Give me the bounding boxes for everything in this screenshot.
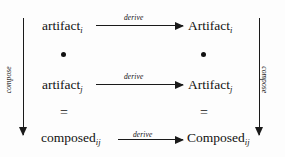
node-artifact-j-upper: Artifactj [188, 78, 233, 92]
node-composed-ij-subscript: ij [96, 137, 101, 147]
compose-arrow-left-label: compose [5, 66, 13, 93]
node-composed-ij-upper-base: Composed [187, 130, 245, 145]
derive-compose-diagram: compose compose artifacti derive Artifac… [0, 0, 285, 157]
equals-separator-right: = [200, 106, 208, 120]
node-artifact-j-subscript: j [80, 84, 83, 94]
node-artifact-i-upper: Artifacti [188, 19, 233, 33]
node-artifact-j-base: artifact [42, 77, 80, 92]
equals-separator-left: = [60, 106, 68, 120]
bullet-separator-right [201, 52, 206, 57]
node-composed-ij: composedij [41, 131, 101, 145]
derive-arrow-row3 [118, 139, 183, 140]
node-composed-ij-upper-subscript: ij [245, 137, 250, 147]
node-artifact-i: artifacti [42, 19, 83, 33]
derive-arrow-row1 [96, 25, 183, 26]
node-artifact-i-upper-base: Artifact [188, 18, 230, 33]
derive-arrow-row3-label: derive [133, 131, 152, 139]
compose-arrow-right-label: compose [261, 66, 269, 93]
node-composed-ij-upper: Composedij [187, 131, 250, 145]
derive-arrow-row2-label: derive [124, 73, 143, 81]
bullet-separator-left [61, 52, 66, 57]
compose-arrow-left [23, 18, 24, 135]
node-artifact-j: artifactj [42, 78, 83, 92]
node-artifact-i-subscript: i [80, 25, 83, 35]
node-artifact-i-base: artifact [42, 18, 80, 33]
node-artifact-i-upper-subscript: i [230, 25, 233, 35]
node-artifact-j-upper-subscript: j [230, 84, 233, 94]
derive-arrow-row1-label: derive [124, 14, 143, 22]
derive-arrow-row2 [96, 84, 183, 85]
node-artifact-j-upper-base: Artifact [188, 77, 230, 92]
node-composed-ij-base: composed [41, 130, 96, 145]
